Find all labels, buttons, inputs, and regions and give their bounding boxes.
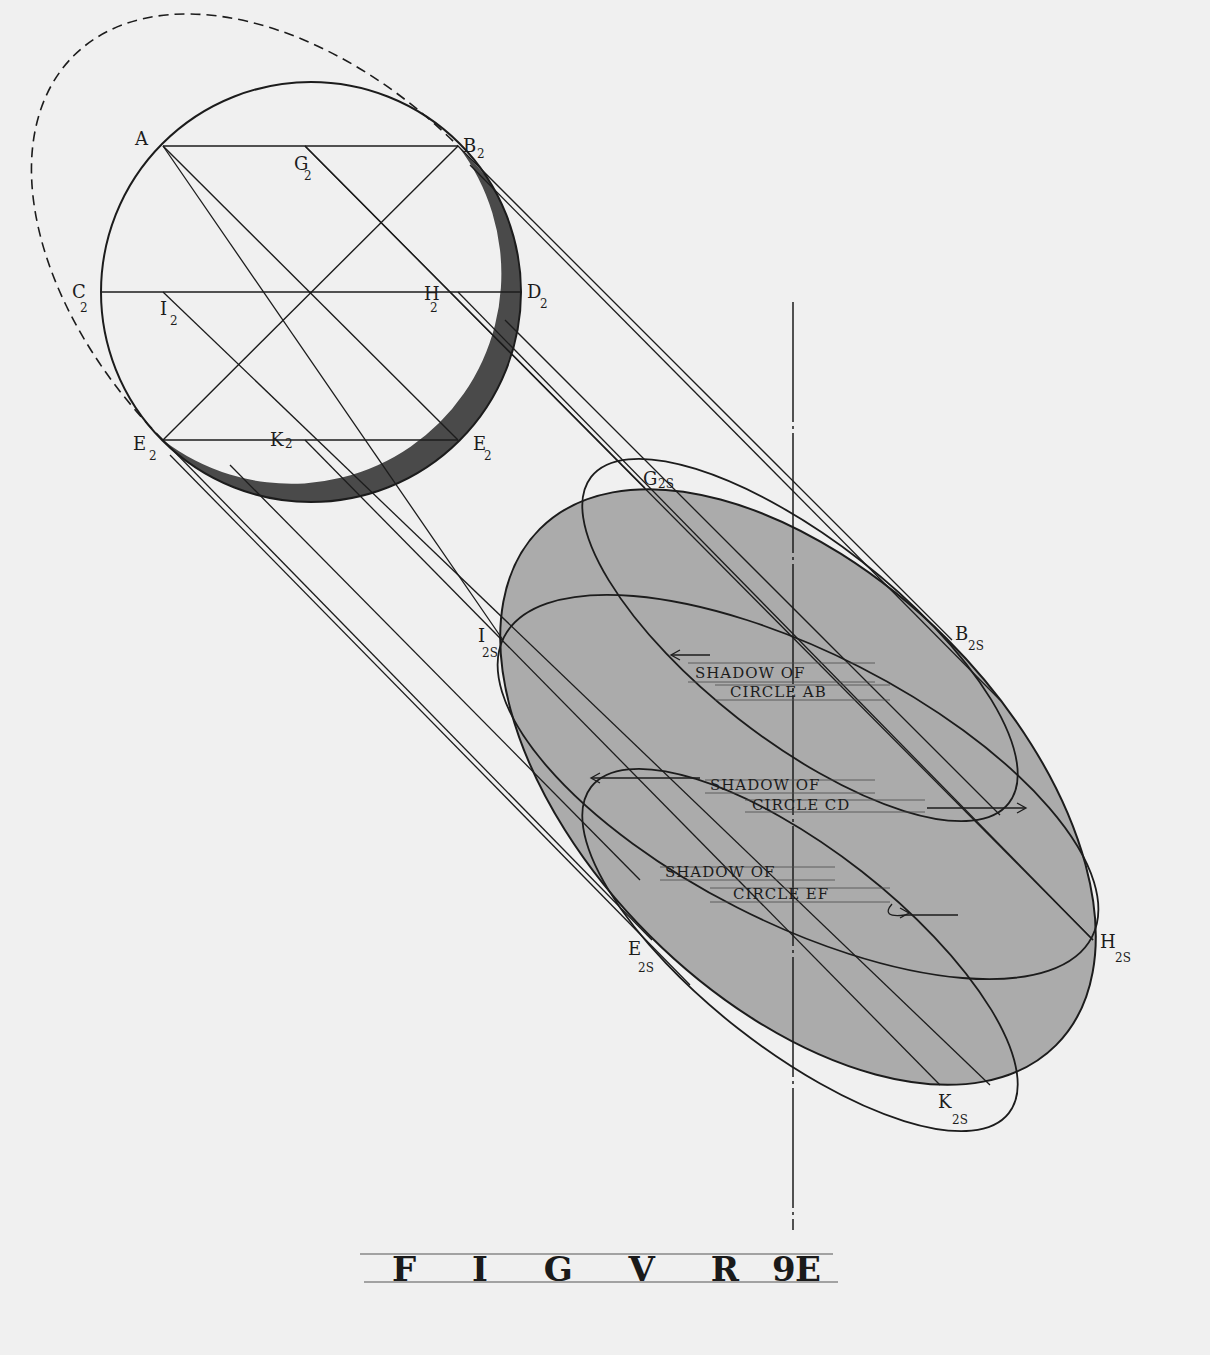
label-e2s: E: [628, 938, 641, 959]
svg-text:2S: 2S: [638, 961, 654, 975]
svg-text:2S: 2S: [1115, 951, 1131, 965]
svg-text:2: 2: [477, 147, 485, 161]
label-k2s: K: [938, 1091, 952, 1112]
svg-text:2: 2: [540, 297, 548, 311]
svg-text:2: 2: [304, 169, 312, 183]
caption-number: 9: [772, 1249, 796, 1289]
shadow-diagram: SHADOW OF CIRCLE AB SHADOW OF CIRCLE CD …: [0, 0, 1210, 1355]
svg-text:2: 2: [484, 449, 492, 463]
annotation-shadow-ef-2: CIRCLE EF: [733, 885, 829, 903]
label-h2s: H: [1100, 931, 1116, 952]
label-c: C: [72, 281, 86, 302]
annotation-shadow-ab-2: CIRCLE AB: [730, 683, 827, 701]
label-i2s: I: [478, 625, 485, 646]
label-e-left: E: [133, 433, 146, 454]
label-i: I: [160, 298, 167, 319]
label-g2s: G: [643, 468, 657, 489]
label-b2s: B: [955, 623, 968, 644]
svg-text:2: 2: [285, 437, 293, 451]
annotation-shadow-cd-2: CIRCLE CD: [752, 796, 850, 814]
annotation-shadow-ab-1: SHADOW OF: [695, 664, 805, 682]
label-a: A: [134, 128, 149, 149]
annotation-shadow-ef-1: SHADOW OF: [665, 863, 775, 881]
figure-canvas: SHADOW OF CIRCLE AB SHADOW OF CIRCLE CD …: [0, 0, 1210, 1355]
svg-text:2S: 2S: [482, 646, 498, 660]
svg-text:2: 2: [80, 301, 88, 315]
svg-text:2: 2: [149, 449, 157, 463]
label-b: B: [463, 135, 476, 156]
svg-text:2S: 2S: [658, 477, 674, 491]
svg-text:2S: 2S: [968, 639, 984, 653]
annotation-shadow-cd-1: SHADOW OF: [710, 776, 820, 794]
svg-text:2: 2: [170, 314, 178, 328]
svg-text:2: 2: [430, 301, 438, 315]
figure-caption: F I G V R E 9: [360, 1249, 843, 1289]
svg-text:2S: 2S: [952, 1113, 968, 1127]
label-k: K: [270, 429, 284, 450]
